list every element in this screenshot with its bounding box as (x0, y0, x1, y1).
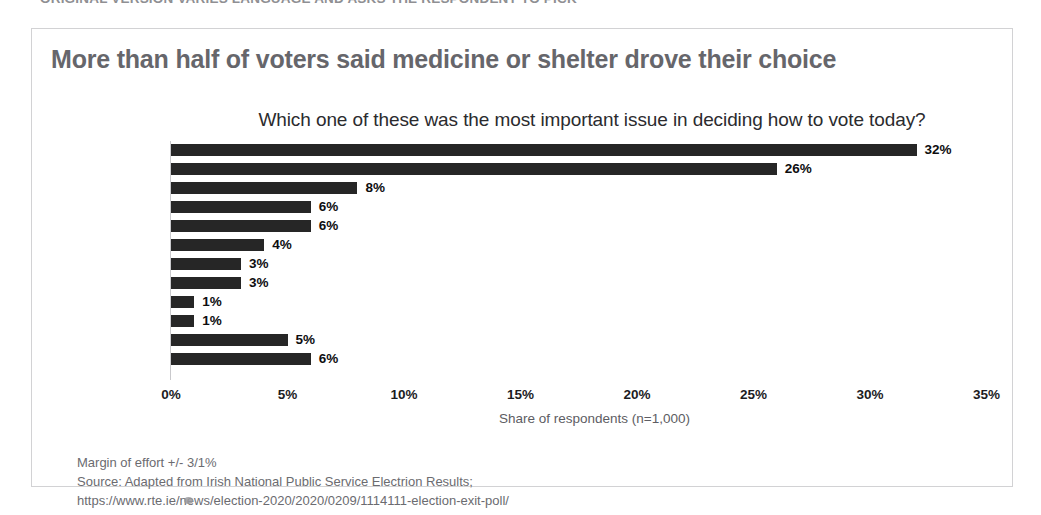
bar-value-label: 4% (272, 237, 292, 253)
x-axis-tick-label: 30% (840, 387, 900, 402)
bar (171, 163, 777, 175)
bar-value-label: 6% (319, 218, 339, 234)
bar-chart: Health32%Housing26%Pension age8%Jobs6%Cl… (32, 139, 1012, 429)
bar-value-label: 3% (249, 256, 269, 272)
bar-value-label: 26% (785, 161, 812, 177)
bar-value-label: 5% (296, 332, 316, 348)
bar-fill (171, 258, 241, 270)
bar (171, 258, 241, 270)
bar-value-label: 8% (365, 180, 385, 196)
bar-value-label: 1% (202, 294, 222, 310)
bar-fill (171, 220, 311, 232)
bar-fill (171, 296, 194, 308)
bar-value-label: 1% (202, 313, 222, 329)
bar (171, 277, 241, 289)
bar-fill (171, 239, 264, 251)
bar-fill (171, 315, 194, 327)
bar-value-label: 6% (319, 199, 339, 215)
bar-fill (171, 201, 311, 213)
footnote-margin: Margin of effort +/- 3/1% (77, 453, 977, 472)
bar (171, 334, 288, 346)
bar-fill (171, 353, 311, 365)
bar (171, 144, 917, 156)
x-axis-title: Share of respondents (n=1,000) (171, 411, 1018, 426)
bar-fill (171, 144, 917, 156)
x-axis-tick-label: 20% (607, 387, 667, 402)
bar-value-label: 32% (925, 142, 952, 158)
footnote-source: Source: Adapted from Irish National Publ… (77, 472, 977, 491)
x-axis-tick-label: 15% (491, 387, 551, 402)
scan-artifact-dot (184, 497, 193, 504)
bar-fill (171, 277, 241, 289)
bar-value-label: 6% (319, 351, 339, 367)
bar (171, 220, 311, 232)
footnotes: Margin of effort +/- 3/1% Source: Adapte… (77, 453, 977, 510)
x-axis-tick-label: 25% (724, 387, 784, 402)
x-axis-tick-label: 10% (374, 387, 434, 402)
x-axis-tick-label: 35% (957, 387, 1017, 402)
bar (171, 296, 194, 308)
bar (171, 182, 357, 194)
bar (171, 239, 264, 251)
bar (171, 201, 311, 213)
x-axis-tick-label: 5% (258, 387, 318, 402)
bar-fill (171, 182, 357, 194)
clipped-banner-text: ORIGINAL VERSION VARIES LANGUAGE AND ASK… (40, 0, 1000, 7)
slide-frame: More than half of voters said medicine o… (31, 28, 1013, 487)
footnote-url[interactable]: https://www.rte.ie/news/election-2020/20… (77, 491, 977, 510)
bar (171, 353, 311, 365)
chart-subtitle: Which one of these was the most importan… (182, 109, 1002, 131)
bar-fill (171, 163, 777, 175)
x-axis-tick-label: 0% (141, 387, 201, 402)
bar-value-label: 3% (249, 275, 269, 291)
page-title: More than half of voters said medicine o… (51, 45, 981, 74)
bar (171, 315, 194, 327)
bar-fill (171, 334, 288, 346)
